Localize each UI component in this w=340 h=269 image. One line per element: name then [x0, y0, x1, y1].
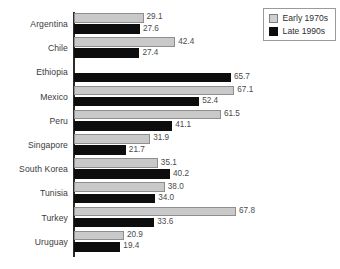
bar-group: 65.7 — [74, 60, 340, 84]
value-label-early: 38.0 — [168, 182, 184, 191]
chart-row: Tunisia38.034.0 — [0, 181, 340, 205]
bar-early-chile[interactable] — [74, 37, 175, 47]
bar-group: 35.140.2 — [74, 157, 340, 181]
legend-label-late: Late 1990s — [283, 26, 326, 36]
category-label-singapore: Singapore — [0, 133, 68, 157]
value-label-early: 20.9 — [127, 230, 143, 239]
category-label-uruguay: Uruguay — [0, 230, 68, 254]
bar-late-argentina[interactable] — [74, 24, 140, 34]
value-label-early: 67.8 — [239, 206, 255, 215]
value-label-early: 67.1 — [237, 85, 253, 94]
chart-row: Peru61.541.1 — [0, 109, 340, 133]
legend-swatch-late-icon — [269, 27, 278, 36]
bar-group: 67.833.6 — [74, 206, 340, 230]
chart-row: South Korea35.140.2 — [0, 157, 340, 181]
bar-late-singapore[interactable] — [74, 145, 126, 155]
bar-late-turkey[interactable] — [74, 218, 154, 228]
category-label-south-korea: South Korea — [0, 157, 68, 181]
category-label-argentina: Argentina — [0, 12, 68, 36]
category-label-tunisia: Tunisia — [0, 181, 68, 205]
bar-early-uruguay[interactable] — [74, 231, 124, 241]
bar-early-turkey[interactable] — [74, 207, 236, 217]
bar-group: 67.152.4 — [74, 85, 340, 109]
category-label-chile: Chile — [0, 36, 68, 60]
bar-group: 20.919.4 — [74, 230, 340, 254]
value-label-late: 33.6 — [157, 217, 173, 226]
chart-row: Singapore31.921.7 — [0, 133, 340, 157]
value-label-early: 42.4 — [178, 37, 194, 46]
chart-row: Ethiopia65.7 — [0, 60, 340, 84]
value-label-late: 52.4 — [202, 96, 218, 105]
bar-late-ethiopia[interactable] — [74, 73, 231, 83]
bar-late-chile[interactable] — [74, 48, 139, 58]
value-label-late: 40.2 — [173, 169, 189, 178]
value-label-late: 21.7 — [129, 145, 145, 154]
legend-label-early: Early 1970s — [283, 13, 328, 23]
chart-row: Mexico67.152.4 — [0, 85, 340, 109]
bar-chart: Argentina29.127.6Chile42.427.4Ethiopia65… — [0, 0, 340, 269]
value-label-late: 34.0 — [158, 193, 174, 202]
bar-early-argentina[interactable] — [74, 13, 144, 23]
chart-row: Uruguay20.919.4 — [0, 230, 340, 254]
legend-item-early-1970s[interactable]: Early 1970s — [269, 13, 328, 23]
bar-group: 38.034.0 — [74, 181, 340, 205]
bar-late-tunisia[interactable] — [74, 194, 155, 204]
bar-early-tunisia[interactable] — [74, 182, 165, 192]
value-label-early: 31.9 — [153, 133, 169, 142]
bar-group: 31.921.7 — [74, 133, 340, 157]
bar-late-peru[interactable] — [74, 121, 172, 131]
category-label-ethiopia: Ethiopia — [0, 60, 68, 84]
value-label-early: 29.1 — [147, 12, 163, 21]
value-label-late: 41.1 — [175, 120, 191, 129]
value-label-early: 35.1 — [161, 158, 177, 167]
bar-early-peru[interactable] — [74, 110, 221, 120]
bar-group: 61.541.1 — [74, 109, 340, 133]
category-label-peru: Peru — [0, 109, 68, 133]
legend-swatch-early-icon — [269, 14, 278, 23]
bar-early-singapore[interactable] — [74, 134, 150, 144]
bar-early-mexico[interactable] — [74, 86, 234, 96]
value-label-late: 27.4 — [142, 48, 158, 57]
legend-item-late-1990s[interactable]: Late 1990s — [269, 26, 328, 36]
value-label-early: 61.5 — [224, 109, 240, 118]
value-label-late: 19.4 — [123, 241, 139, 250]
value-label-late: 65.7 — [234, 72, 250, 81]
bar-early-south-korea[interactable] — [74, 158, 158, 168]
bar-late-mexico[interactable] — [74, 97, 199, 107]
chart-row: Turkey67.833.6 — [0, 206, 340, 230]
category-label-turkey: Turkey — [0, 206, 68, 230]
bar-late-south-korea[interactable] — [74, 169, 170, 179]
value-label-late: 27.6 — [143, 24, 159, 33]
bar-late-uruguay[interactable] — [74, 242, 120, 252]
category-label-mexico: Mexico — [0, 85, 68, 109]
chart-legend: Early 1970s Late 1990s — [263, 8, 336, 41]
